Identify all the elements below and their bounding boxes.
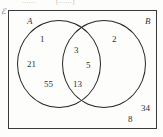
venn-diagram-figure: ...... [......] ℰ A B 1 21 55 3 5 13 2 3… (0, 0, 163, 137)
region-outside-value: 8 (128, 115, 133, 124)
region-intersection-value: 5 (86, 61, 91, 70)
region-a-only-value: 21 (27, 60, 36, 69)
universal-set-symbol: ℰ (1, 8, 6, 16)
region-a-only-value: 1 (40, 35, 45, 44)
cut-off-text-fragment-left: ...... (22, 0, 36, 5)
cut-off-text-strip: ...... [......] (0, 0, 163, 7)
region-intersection-value: 13 (73, 80, 82, 89)
region-a-only-value: 55 (44, 80, 53, 89)
set-b-label: B (145, 17, 151, 26)
cut-off-text-fragment-right: [......] (56, 0, 75, 5)
region-b-only-value: 34 (141, 104, 150, 113)
set-a-label: A (27, 17, 33, 26)
set-b-circle (62, 20, 146, 108)
region-intersection-value: 3 (74, 46, 79, 55)
region-b-only-value: 2 (112, 35, 117, 44)
